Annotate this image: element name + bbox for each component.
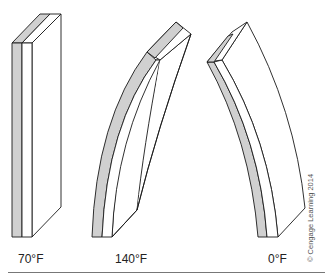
label-0f: 0°F — [268, 252, 287, 266]
strip-140f — [92, 22, 191, 237]
strip-70f — [12, 14, 61, 237]
bottom-rule — [8, 272, 325, 273]
bimetallic-strip-figure — [0, 0, 325, 280]
strip-0f — [207, 22, 305, 237]
copyright-credit: © Cengage Learning 2014 — [306, 174, 315, 262]
label-70f: 70°F — [18, 252, 43, 266]
label-140f: 140°F — [115, 252, 147, 266]
